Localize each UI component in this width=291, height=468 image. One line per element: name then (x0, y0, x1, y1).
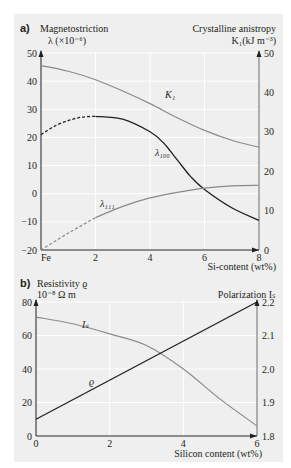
tick-labels: 02468060402002.22.12.01.91.8 (22, 297, 275, 450)
series-Iₛ (36, 317, 257, 426)
right-y-tick-label: 40 (264, 87, 274, 98)
lambda111-series-label: λ₁₁₁ (99, 198, 115, 209)
right-y-tick-label: 20 (264, 166, 274, 177)
right-y-tick-label: 1.9 (262, 397, 275, 408)
panel-a-chart: Fe246850403020100−10−2050403020100 (21, 48, 274, 264)
x-tick-label: 2 (107, 438, 112, 449)
x-tick-label: 0 (34, 438, 39, 449)
is-series-label: Iₛ (81, 319, 89, 330)
right-y-tick-label: 30 (264, 126, 274, 137)
left-y-tick-label: 10 (27, 160, 37, 171)
left-y-tick-label: 40 (22, 364, 32, 375)
panel-b-chart: 02468060402002.22.12.01.91.8 (22, 297, 275, 450)
right-y-tick-label: 50 (264, 48, 274, 59)
a-left-axis-unit: λ (×10⁻⁶) (48, 35, 86, 47)
left-y-tick-label: −20 (21, 245, 37, 256)
x-tick-label: Fe (41, 252, 52, 263)
b-x-axis-title: Silicon content (wt%) (174, 448, 262, 460)
panel-a-label: a) (20, 22, 30, 34)
rho-series-label: ϱ (89, 376, 94, 387)
a-x-axis-title: Si-content (wt%) (207, 261, 276, 273)
left-y-tick-label: 0 (27, 431, 32, 442)
left-y-tick-label: 80 (22, 297, 32, 308)
grid-lines (41, 53, 259, 250)
left-y-tick-label: 0 (32, 188, 37, 199)
b-left-axis-title: Resistivity ϱ (37, 278, 87, 289)
x-tick-label: 2 (93, 252, 98, 263)
right-y-tick-label: 2.1 (262, 330, 275, 341)
left-y-tick-label: 20 (27, 132, 37, 143)
panel-b-label: b) (20, 277, 31, 289)
chart-canvas: Fe246850403020100−10−2050403020100 02468… (0, 0, 291, 468)
left-y-tick-label: 40 (27, 76, 37, 87)
b-left-axis-unit: 10⁻⁸ Ω m (37, 289, 76, 300)
right-y-tick-label: 2.0 (262, 364, 275, 375)
right-y-tick-label: 1.8 (262, 431, 275, 442)
lambda100-series-label: λ₁₀₀ (154, 147, 170, 158)
grid-lines (36, 302, 257, 436)
x-tick-label: 4 (148, 252, 153, 263)
right-y-tick-label: 0 (264, 245, 269, 256)
left-y-tick-label: 60 (22, 330, 32, 341)
right-y-tick-label: 10 (264, 205, 274, 216)
a-right-axis-unit: K₁(kJ m⁻³) (231, 35, 276, 47)
tick-labels: Fe246850403020100−10−2050403020100 (21, 48, 274, 264)
left-y-tick-label: 50 (27, 48, 37, 59)
x-tick-label: 6 (202, 252, 207, 263)
a-left-axis-title: Magnetostriction (40, 23, 108, 34)
b-right-axis-title: Polarization Iₛ (218, 289, 276, 300)
k1-series-label: K₁ (164, 89, 175, 100)
left-y-tick-label: 30 (27, 104, 37, 115)
left-y-tick-label: −10 (21, 216, 37, 227)
a-right-axis-title: Crystalline anistropy (192, 23, 276, 34)
left-y-tick-label: 20 (22, 397, 32, 408)
